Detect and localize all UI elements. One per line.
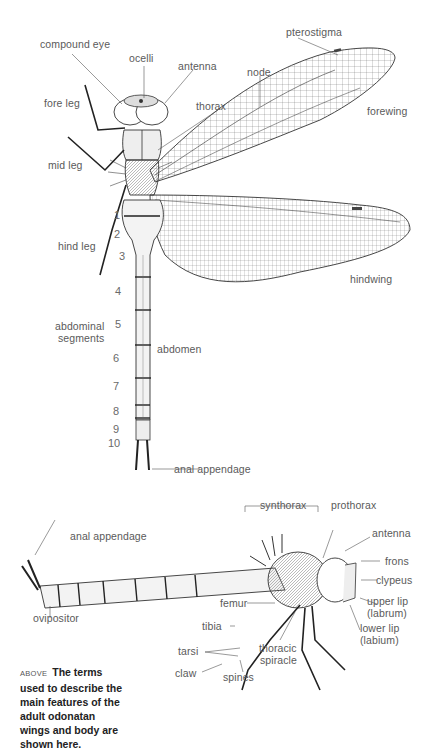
- label-claw: claw: [175, 667, 196, 679]
- segment-number-6: 6: [113, 352, 119, 364]
- label-ovipositor: ovipositor: [33, 612, 79, 624]
- side-head-drawing: [317, 558, 356, 602]
- label-mid-leg: mid leg: [48, 159, 83, 171]
- label-tibia: tibia: [202, 620, 222, 632]
- segment-number-9: 9: [113, 423, 119, 435]
- label-thorax: thorax: [196, 100, 226, 112]
- segment-number-5: 5: [115, 318, 121, 330]
- segment-number-8: 8: [113, 405, 119, 417]
- head-drawing: [114, 95, 168, 125]
- label-antenna: antenna: [178, 60, 217, 72]
- label-fore-leg: fore leg: [44, 97, 80, 109]
- caption-kicker: ABOVE: [20, 669, 47, 678]
- label-forewing: forewing: [367, 105, 408, 117]
- label-pterostigma: pterostigma: [286, 26, 342, 38]
- label-spines: spines: [223, 671, 254, 683]
- label-tarsi: tarsi: [178, 645, 198, 657]
- label-upper-lip: upper lip: [367, 595, 408, 607]
- segment-number-2: 2: [114, 228, 120, 240]
- label-prothorax: prothorax: [331, 499, 376, 511]
- segment-number-3: 3: [119, 250, 125, 262]
- label-anal-appendage-side: anal appendage: [70, 530, 147, 542]
- label-thoracic-spiracle-2: spiracle: [260, 654, 297, 666]
- label-upper-lip-2: (labrum): [367, 607, 407, 619]
- caption-text: The terms used to describe the main feat…: [20, 666, 122, 750]
- label-abdomen: abdomen: [157, 343, 201, 355]
- label-lower-lip-2: (labium): [360, 634, 399, 646]
- label-clypeus: clypeus: [376, 574, 412, 586]
- label-abdominal-segments-2: segments: [58, 332, 104, 344]
- label-frons: frons: [385, 555, 409, 567]
- label-femur: femur: [220, 597, 247, 609]
- label-antenna-side: antenna: [372, 527, 411, 539]
- segment-number-4: 4: [115, 285, 121, 297]
- label-abdominal-segments: abdominal: [55, 320, 104, 332]
- segment-number-1: 1: [114, 209, 120, 221]
- label-ocelli: ocelli: [129, 52, 154, 64]
- segment-number-10: 10: [108, 437, 120, 449]
- label-anal-appendage-top: anal appendage: [174, 463, 251, 475]
- label-hindwing: hindwing: [350, 273, 392, 285]
- label-lower-lip: lower lip: [360, 622, 399, 634]
- label-compound-eye: compound eye: [40, 38, 110, 50]
- figure-caption: ABOVE The terms used to describe the mai…: [20, 665, 125, 751]
- label-synthorax: synthorax: [260, 499, 306, 511]
- hindwing-drawing: [150, 195, 410, 282]
- segment-number-7: 7: [113, 380, 119, 392]
- label-node: node: [247, 66, 271, 78]
- label-hind-leg: hind leg: [58, 240, 96, 252]
- label-thoracic-spiracle: thoracic: [259, 642, 297, 654]
- abdomen-drawing: [122, 200, 163, 470]
